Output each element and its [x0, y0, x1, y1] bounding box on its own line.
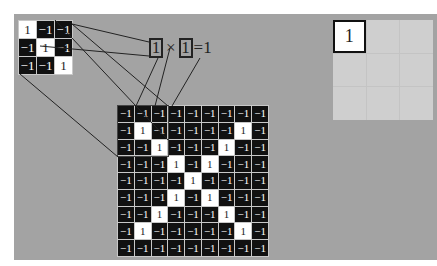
image-cell: −1 — [152, 156, 168, 172]
output-cell — [367, 87, 400, 120]
image-cell: −1 — [235, 207, 251, 223]
image-cell: −1 — [135, 207, 151, 223]
image-cell: 1 — [135, 123, 151, 139]
filter-cell: 1 — [55, 57, 72, 74]
image-cell: −1 — [185, 106, 201, 122]
image-cell: −1 — [252, 173, 268, 189]
filter-cell: −1 — [19, 57, 36, 74]
image-cell: −1 — [202, 106, 218, 122]
image-cell: −1 — [168, 223, 184, 239]
image-cell: 1 — [202, 190, 218, 206]
image-cell: −1 — [202, 207, 218, 223]
image-cell: −1 — [235, 156, 251, 172]
output-cell — [400, 87, 433, 120]
image-cell: 1 — [135, 223, 151, 239]
filter-value-box: 1 — [149, 38, 163, 58]
image-cell: −1 — [118, 223, 134, 239]
image-cell: −1 — [252, 156, 268, 172]
image-cell: −1 — [185, 207, 201, 223]
image-cell: −1 — [168, 173, 184, 189]
image-cell: 1 — [152, 207, 168, 223]
image-cell: 1 — [235, 223, 251, 239]
output-grid: 1 — [333, 20, 433, 120]
image-cell: −1 — [118, 173, 134, 189]
image-cell: −1 — [219, 106, 235, 122]
output-cell — [400, 54, 433, 87]
image-cell: −1 — [235, 240, 251, 256]
image-cell: −1 — [235, 190, 251, 206]
image-cell: −1 — [235, 106, 251, 122]
image-cell: 1 — [202, 156, 218, 172]
filter-cell: −1 — [37, 57, 54, 74]
image-cell: −1 — [235, 173, 251, 189]
image-cell: −1 — [252, 106, 268, 122]
image-cell: 1 — [168, 156, 184, 172]
image-cell: −1 — [118, 240, 134, 256]
image-cell: −1 — [202, 240, 218, 256]
filter-cell: 1 — [37, 39, 54, 56]
image-cell: −1 — [135, 173, 151, 189]
image-cell: −1 — [219, 156, 235, 172]
image-cell: −1 — [235, 140, 251, 156]
image-value-box: 1 — [179, 38, 193, 58]
image-cell: −1 — [168, 123, 184, 139]
image-cell: −1 — [219, 240, 235, 256]
filter-grid: 1−1−1−11−1−1−11 — [18, 20, 73, 75]
output-cell — [333, 87, 366, 120]
output-cell — [367, 20, 400, 53]
filter-cell: −1 — [55, 39, 72, 56]
image-cell: −1 — [252, 240, 268, 256]
image-cell: −1 — [219, 123, 235, 139]
image-cell: −1 — [202, 223, 218, 239]
image-cell: −1 — [135, 140, 151, 156]
image-cell: −1 — [202, 140, 218, 156]
image-cell: −1 — [252, 223, 268, 239]
image-cell: −1 — [252, 207, 268, 223]
image-cell: 1 — [219, 140, 235, 156]
image-cell: −1 — [185, 140, 201, 156]
image-cell: −1 — [202, 123, 218, 139]
image-cell: 1 — [152, 140, 168, 156]
image-cell: −1 — [152, 223, 168, 239]
image-cell: −1 — [252, 190, 268, 206]
image-cell: −1 — [219, 223, 235, 239]
image-cell: −1 — [252, 140, 268, 156]
image-cell: −1 — [135, 156, 151, 172]
image-cell: −1 — [185, 156, 201, 172]
image-cell: −1 — [135, 240, 151, 256]
filter-cell: 1 — [19, 21, 36, 38]
image-cell: −1 — [135, 106, 151, 122]
filter-cell: −1 — [55, 21, 72, 38]
image-cell: −1 — [152, 106, 168, 122]
equation-result: 1 — [203, 38, 212, 58]
image-cell: 1 — [185, 173, 201, 189]
image-cell: −1 — [185, 240, 201, 256]
image-cell: −1 — [118, 156, 134, 172]
image-cell: −1 — [168, 207, 184, 223]
image-cell: −1 — [202, 173, 218, 189]
image-cell: −1 — [118, 106, 134, 122]
image-cell: −1 — [152, 173, 168, 189]
equals-sign: = — [194, 38, 204, 58]
image-cell: −1 — [168, 240, 184, 256]
image-cell: −1 — [252, 123, 268, 139]
image-cell: −1 — [152, 240, 168, 256]
image-cell: −1 — [118, 207, 134, 223]
output-cell: 1 — [333, 20, 366, 53]
image-cell: −1 — [118, 140, 134, 156]
image-cell: 1 — [219, 207, 235, 223]
image-cell: 1 — [168, 190, 184, 206]
filter-cell: −1 — [37, 21, 54, 38]
image-cell: 1 — [235, 123, 251, 139]
image-cell: −1 — [185, 123, 201, 139]
image-cell: −1 — [118, 123, 134, 139]
image-cell: −1 — [135, 190, 151, 206]
image-cell: −1 — [118, 190, 134, 206]
multiply-operator: × — [166, 38, 176, 58]
image-cell: −1 — [219, 173, 235, 189]
output-cell — [367, 54, 400, 87]
image-grid: −1−1−1−1−1−1−1−1−1−11−1−1−1−1−11−1−1−11−… — [117, 105, 269, 257]
image-cell: −1 — [185, 190, 201, 206]
image-cell: −1 — [168, 140, 184, 156]
image-cell: −1 — [185, 223, 201, 239]
